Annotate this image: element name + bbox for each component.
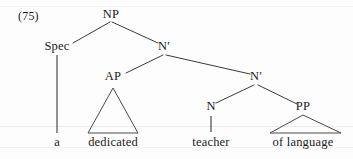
branch-nbar1-nbar2 (166, 55, 250, 74)
branch-np-nbar1 (112, 22, 158, 43)
node-nbar-upper: N′ (158, 40, 170, 52)
triangle-ap (88, 88, 138, 133)
node-nbar-lower: N′ (250, 70, 262, 82)
terminal-prepositional-phrase: of language (273, 136, 334, 148)
terminal-adjective: dedicated (88, 136, 138, 148)
branch-nbar1-ap (126, 55, 163, 73)
node-ap: AP (105, 70, 121, 82)
example-number: (75) (18, 10, 39, 22)
node-pp: PP (296, 100, 310, 112)
branch-nbar2-pp (258, 85, 297, 104)
branch-np-spec (73, 22, 110, 43)
syntax-tree-figure: (75) NP Spec N′ AP N′ N PP a dedicated t… (0, 0, 353, 159)
node-np: NP (103, 8, 119, 20)
terminal-determiner: a (54, 136, 60, 148)
node-spec: Spec (44, 40, 69, 52)
node-n: N (206, 100, 215, 112)
triangle-pp (270, 115, 341, 133)
terminal-noun: teacher (192, 136, 229, 148)
branch-nbar2-n (216, 85, 254, 103)
